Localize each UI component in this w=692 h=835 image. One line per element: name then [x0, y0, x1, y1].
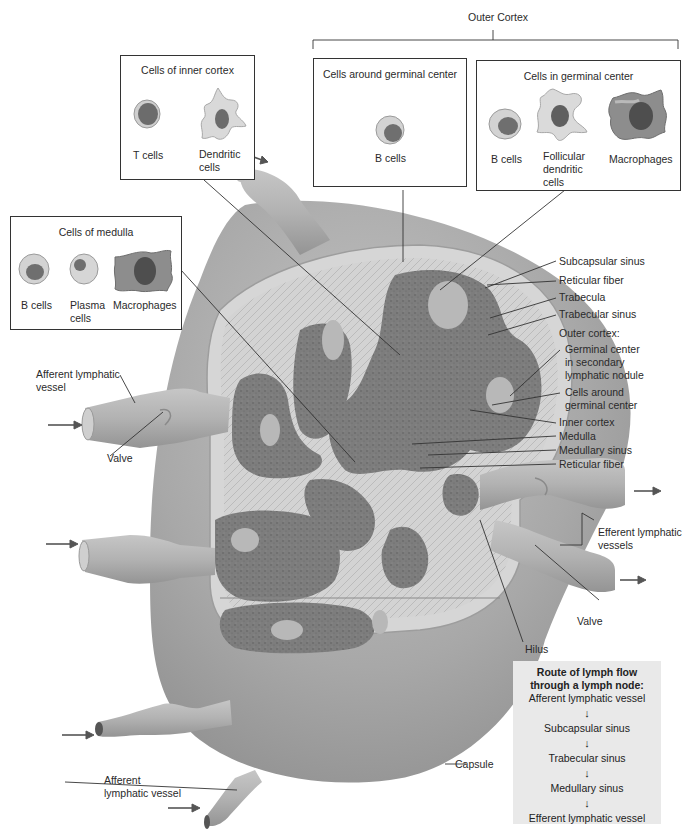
label-germinal-center-1: Germinal center — [565, 343, 640, 356]
inner-cortex-cells-box: Cells of inner cortex T cells Dendritic … — [120, 55, 255, 180]
b-cells-label-around: B cells — [375, 152, 406, 165]
label-subcapsular-sinus: Subcapsular sinus — [559, 255, 645, 268]
down-arrow-icon: ↓ — [513, 704, 661, 722]
label-medulla: Medulla — [559, 430, 596, 443]
dendritic-cell-icon — [196, 86, 248, 144]
b-cell-icon — [488, 107, 522, 141]
in-germinal-box-title: Cells in germinal center — [477, 70, 680, 82]
label-valve-left: Valve — [107, 452, 133, 465]
down-arrow-icon: ↓ — [513, 764, 661, 782]
label-efferent-vessels-1: Efferent lymphatic — [598, 526, 682, 539]
plasma-cell-icon — [69, 253, 99, 285]
label-afferent-vessel-top-2: vessel — [36, 381, 66, 394]
label-cells-around-2: germinal center — [565, 399, 637, 412]
t-cell-icon — [133, 99, 161, 129]
label-germinal-center-2: in secondary — [565, 356, 625, 369]
macrophages-label-germinal: Macrophages — [609, 153, 673, 166]
label-germinal-center-3: lymphatic nodule — [565, 369, 644, 382]
b-cell-icon — [375, 115, 405, 145]
label-afferent-vessel-top-1: Afferent lymphatic — [36, 368, 120, 381]
around-germinal-box-title: Cells around germinal center — [314, 68, 466, 80]
around-germinal-center-box: Cells around germinal center B cells — [313, 58, 467, 187]
b-cells-label-medulla: B cells — [21, 299, 52, 312]
route-title-line-1: Route of lymph flow — [513, 666, 661, 679]
label-outer-cortex: Outer cortex: — [559, 327, 620, 340]
route-title: Route of lymph flow through a lymph node… — [513, 666, 661, 692]
label-inner-cortex: Inner cortex — [559, 416, 614, 429]
dendritic-cells-label: Dendritic cells — [199, 148, 240, 174]
label-medullary-sinus: Medullary sinus — [559, 444, 632, 457]
follicular-dendritic-cells-label: Follicular dendritic cells — [543, 150, 585, 189]
outer-cortex-label: Outer Cortex — [468, 11, 528, 24]
label-efferent-vessels-2: vessels — [598, 539, 633, 552]
lymph-flow-route-box: Route of lymph flow through a lymph node… — [513, 661, 661, 824]
inner-cortex-box-title: Cells of inner cortex — [121, 64, 254, 76]
route-step-efferent: Efferent lymphatic vessel — [513, 812, 661, 824]
route-step-subcapsular: Subcapsular sinus — [513, 722, 661, 734]
label-capsule: Capsule — [455, 758, 494, 771]
label-trabecula: Trabecula — [559, 291, 605, 304]
plasma-cells-label: Plasma cells — [70, 299, 105, 325]
b-cell-icon — [18, 253, 50, 285]
route-step-afferent: Afferent lymphatic vessel — [513, 692, 661, 704]
label-trabecular-sinus: Trabecular sinus — [559, 308, 636, 321]
macrophage-icon — [111, 247, 175, 293]
follicular-dendritic-cell-icon — [533, 86, 589, 144]
label-valve-right: Valve — [577, 615, 603, 628]
macrophages-label-medulla: Macrophages — [113, 299, 177, 312]
medulla-cells-box: Cells of medulla B cells Plasma cells Ma… — [10, 216, 182, 330]
route-step-trabecular: Trabecular sinus — [513, 752, 661, 764]
down-arrow-icon: ↓ — [513, 794, 661, 812]
route-step-medullary: Medullary sinus — [513, 782, 661, 794]
macrophage-icon — [605, 88, 669, 144]
b-cells-label-germinal: B cells — [491, 153, 522, 166]
down-arrow-icon: ↓ — [513, 734, 661, 752]
medulla-box-title: Cells of medulla — [11, 226, 181, 238]
label-afferent-vessel-bottom-1: Afferent — [104, 774, 141, 787]
label-afferent-vessel-bottom-2: lymphatic vessel — [104, 787, 181, 800]
route-title-line-2: through a lymph node: — [513, 679, 661, 692]
label-reticular-fiber-bottom: Reticular fiber — [559, 458, 624, 471]
afferent-vessel-bottom — [204, 770, 262, 829]
label-reticular-fiber-top: Reticular fiber — [559, 274, 624, 287]
in-germinal-center-box: Cells in germinal center B cells Follicu… — [476, 60, 681, 191]
label-cells-around-1: Cells around — [565, 386, 624, 399]
label-hilus: Hilus — [525, 643, 548, 656]
t-cells-label: T cells — [133, 149, 163, 162]
